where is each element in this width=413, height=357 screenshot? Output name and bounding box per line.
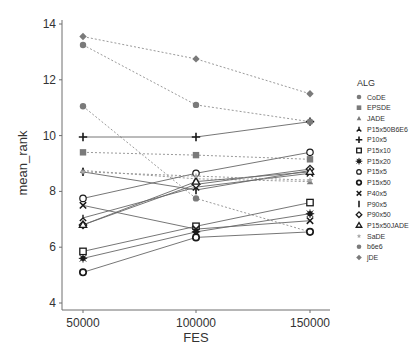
circle-marker xyxy=(80,103,86,109)
diamond-marker xyxy=(356,255,362,261)
legend-label: P15x50JADE xyxy=(367,222,409,229)
legend-item: P15x20 xyxy=(356,158,391,165)
diamond-marker xyxy=(79,33,86,40)
y-axis-label: mean_rank xyxy=(15,130,30,196)
legend-title: ALG xyxy=(357,78,375,88)
legend-item: P15x50B6E6 xyxy=(357,126,408,133)
series-markers xyxy=(79,33,314,276)
asterisk-rays xyxy=(356,158,363,165)
open-circle-marker xyxy=(80,195,86,201)
legend-item: P15x10 xyxy=(357,147,391,154)
y-tick-label: 8 xyxy=(49,184,56,198)
y-tick-label: 14 xyxy=(43,17,57,31)
diamond-marker xyxy=(306,90,313,97)
open-square-marker xyxy=(80,248,86,254)
legend-label: b6e6 xyxy=(367,243,383,250)
series-markers-p15x50 xyxy=(80,229,313,276)
y-tick-label: 10 xyxy=(43,129,57,143)
legend-label: JADE xyxy=(367,115,385,122)
legend-label: P15x10 xyxy=(367,147,391,154)
legend-label: P15x20 xyxy=(367,158,391,165)
open-square-marker xyxy=(307,199,313,205)
series-markers-p15x10 xyxy=(80,199,313,254)
square-marker xyxy=(357,105,362,110)
legend-label: P15x5 xyxy=(367,168,387,175)
legend-label: EPSDE xyxy=(367,104,391,111)
open-circle-thick-marker xyxy=(357,180,362,185)
series-markers-code xyxy=(80,103,313,235)
x-axis-label: FES xyxy=(183,330,209,345)
open-triangle-marker xyxy=(192,178,199,184)
tri-marker xyxy=(357,127,362,132)
legend-item: SaDE xyxy=(357,233,386,240)
asterisk-rays xyxy=(79,254,87,262)
series-markers-p10x5 xyxy=(79,117,314,141)
x-marker xyxy=(357,191,362,196)
legend-label: SaDE xyxy=(367,233,386,240)
open-diamond-marker xyxy=(356,212,362,218)
circle-marker xyxy=(357,245,362,250)
legend-item: EPSDE xyxy=(357,104,391,111)
x-marker xyxy=(80,202,86,208)
legend-label: jDE xyxy=(366,254,379,262)
square-marker xyxy=(80,149,86,155)
open-circle-thick-marker xyxy=(307,229,313,235)
legend-item: b6e6 xyxy=(357,243,383,250)
diamond-marker xyxy=(192,55,199,62)
legend-item: jDE xyxy=(356,254,378,262)
y-tick-label: 4 xyxy=(49,296,56,310)
open-triangle-marker xyxy=(79,221,86,227)
circle-marker xyxy=(80,42,86,48)
open-circle-marker xyxy=(307,149,313,155)
x-tick-label: 50000 xyxy=(66,316,100,330)
star-marker xyxy=(357,234,361,238)
series-markers-p40x5 xyxy=(80,202,313,232)
triangle-marker xyxy=(357,116,362,120)
open-circle-thick-marker xyxy=(193,234,199,240)
plus-marker xyxy=(356,137,363,144)
square-marker xyxy=(193,152,199,158)
y-tick-label: 6 xyxy=(49,240,56,254)
legend-label: P90x50 xyxy=(367,211,391,218)
plus-marker xyxy=(79,133,87,141)
legend-label: P15x50B6E6 xyxy=(367,126,408,133)
legend-item: P15x50JADE xyxy=(356,222,409,229)
open-square-marker xyxy=(357,148,362,153)
chart-canvas: 46810121450000100000150000 mean_rank FES… xyxy=(0,0,413,357)
legend-item: P40x5 xyxy=(357,190,387,197)
legend: ALG CoDEEPSDEJADEP15x50B6E6P10x5P15x10P1… xyxy=(356,78,409,262)
legend-label: P15x50 xyxy=(367,179,391,186)
series-line-jde xyxy=(83,37,310,94)
circle-marker xyxy=(357,95,362,100)
open-circle-marker xyxy=(357,170,362,175)
circle-marker xyxy=(307,118,313,124)
legend-item: P10x5 xyxy=(356,136,387,143)
legend-label: P90x5 xyxy=(367,201,387,208)
x-tick-label: 100000 xyxy=(176,316,216,330)
asterisk-rays xyxy=(306,210,314,218)
open-circle-thick-marker xyxy=(80,269,86,275)
legend-label: CoDE xyxy=(367,94,386,101)
series-markers-b6e6 xyxy=(80,42,313,125)
legend-item: P15x5 xyxy=(357,168,387,175)
x-tick-label: 150000 xyxy=(290,316,330,330)
y-tick-label: 12 xyxy=(43,73,57,87)
legend-item: P90x5 xyxy=(359,201,387,208)
open-triangle-marker xyxy=(356,223,362,228)
legend-label: P10x5 xyxy=(367,136,387,143)
circle-marker xyxy=(193,195,199,201)
plus-marker xyxy=(192,133,200,141)
circle-marker xyxy=(193,102,199,108)
legend-items: CoDEEPSDEJADEP15x50B6E6P10x5P15x10P15x20… xyxy=(356,94,409,263)
series-markers-epsde xyxy=(80,149,313,162)
square-marker xyxy=(307,156,313,162)
line-chart: 46810121450000100000150000 mean_rank FES… xyxy=(0,0,413,357)
legend-item: CoDE xyxy=(357,94,386,101)
legend-item: JADE xyxy=(357,115,386,122)
legend-item: P90x50 xyxy=(356,211,391,218)
legend-label: P40x5 xyxy=(367,190,387,197)
legend-item: P15x50 xyxy=(357,179,391,186)
